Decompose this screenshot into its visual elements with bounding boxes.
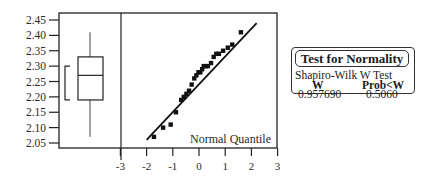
- y-tick-label: 2.45: [26, 14, 46, 26]
- normality-test-title: Test for Normality: [295, 50, 409, 67]
- x-tick-label: -1: [168, 160, 177, 172]
- x-tick-label: 3: [275, 160, 281, 172]
- normality-test-panel: Test for Normality Shapiro-Wilk W Test W…: [291, 47, 415, 94]
- y-tick-label: 2.35: [26, 45, 46, 57]
- x-axis: -3-2-10123: [116, 148, 281, 172]
- y-tick-label: 2.05: [26, 137, 46, 149]
- data-points: [152, 30, 243, 139]
- y-tick-label: 2.40: [26, 29, 46, 41]
- x-axis-label: Normal Quantile: [190, 132, 271, 146]
- y-tick-label: 2.10: [26, 122, 46, 134]
- x-tick-label: -3: [116, 160, 126, 172]
- w-value: 0.957690: [298, 88, 341, 100]
- x-tick-label: 2: [249, 160, 255, 172]
- y-tick-label: 2.15: [26, 106, 46, 118]
- y-tick-label: 2.25: [26, 76, 46, 88]
- y-axis: 2.452.402.352.302.252.202.152.102.05: [26, 14, 59, 149]
- x-tick-label: 1: [222, 160, 228, 172]
- y-tick-label: 2.20: [26, 91, 46, 103]
- plot-frame: [59, 13, 277, 148]
- x-tick-label: 0: [196, 160, 202, 172]
- prob-value: 0.5060: [366, 88, 398, 100]
- y-tick-label: 2.30: [26, 60, 46, 72]
- fit-line: [147, 23, 257, 140]
- x-tick-label: -2: [142, 160, 151, 172]
- box-plot: [65, 32, 103, 137]
